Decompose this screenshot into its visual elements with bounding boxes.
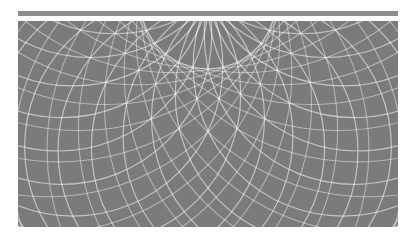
top-divider-bar xyxy=(18,11,398,16)
decorative-pattern-panel xyxy=(18,21,398,227)
circle-pattern-graphic xyxy=(18,21,398,227)
